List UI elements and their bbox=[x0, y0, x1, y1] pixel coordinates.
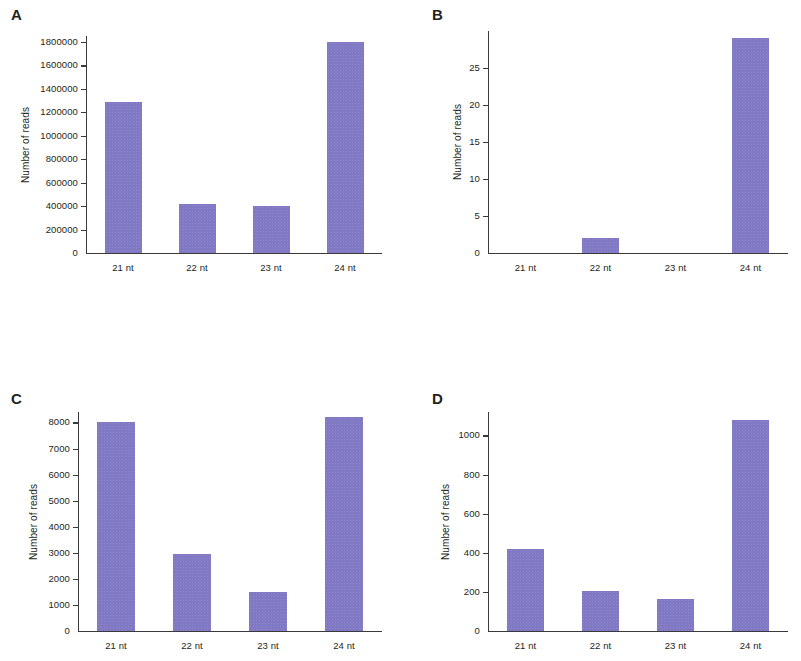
x-axis-category-label: 21 nt bbox=[86, 262, 160, 273]
y-axis-tick bbox=[73, 449, 78, 450]
panel-a: A Number of reads02000004000006000008000… bbox=[0, 0, 400, 330]
y-axis-tick bbox=[73, 605, 78, 606]
y-axis-tick-label: 4000 bbox=[34, 521, 70, 532]
bar bbox=[582, 238, 620, 253]
y-axis-title: Number of reads bbox=[20, 107, 31, 183]
x-axis-category-label: 22 nt bbox=[160, 262, 234, 273]
y-axis-tick-label: 0 bbox=[458, 247, 480, 258]
y-axis-tick bbox=[81, 65, 86, 66]
y-axis-tick bbox=[483, 592, 488, 593]
y-axis-tick-label: 2000 bbox=[34, 573, 70, 584]
y-axis-tick bbox=[81, 136, 86, 137]
x-axis-category-label: 24 nt bbox=[713, 262, 788, 273]
y-axis-tick bbox=[81, 159, 86, 160]
x-axis-category-label: 23 nt bbox=[230, 640, 306, 651]
y-axis-tick-label: 400000 bbox=[26, 200, 78, 211]
bar bbox=[97, 422, 135, 631]
bar bbox=[507, 549, 545, 631]
y-axis-tick-label: 8000 bbox=[34, 416, 70, 427]
y-axis-tick-label: 7000 bbox=[34, 443, 70, 454]
x-axis-category-label: 21 nt bbox=[78, 640, 154, 651]
x-axis-category-label: 24 nt bbox=[308, 262, 382, 273]
bar bbox=[173, 554, 211, 631]
y-axis-tick-label: 6000 bbox=[34, 469, 70, 480]
y-axis-line bbox=[78, 412, 79, 632]
y-axis-tick-label: 5 bbox=[458, 210, 480, 221]
y-axis-tick bbox=[81, 206, 86, 207]
y-axis-tick bbox=[483, 105, 488, 106]
x-axis-category-label: 21 nt bbox=[488, 640, 563, 651]
y-axis-tick-label: 800000 bbox=[26, 153, 78, 164]
y-axis-tick-label: 5000 bbox=[34, 495, 70, 506]
x-axis-category-label: 24 nt bbox=[306, 640, 382, 651]
y-axis-tick bbox=[483, 142, 488, 143]
y-axis-tick-label: 15 bbox=[458, 136, 480, 147]
y-axis-tick-label: 3000 bbox=[34, 547, 70, 558]
y-axis-tick-label: 0 bbox=[446, 625, 480, 636]
y-axis-tick-label: 0 bbox=[34, 625, 70, 636]
y-axis-tick bbox=[483, 475, 488, 476]
bar bbox=[732, 38, 770, 253]
figure-panels-abcd: A Number of reads02000004000006000008000… bbox=[0, 0, 801, 661]
bar bbox=[253, 206, 290, 253]
panel-letter-b: B bbox=[432, 6, 443, 23]
x-axis-category-label: 24 nt bbox=[713, 640, 788, 651]
bar bbox=[582, 591, 620, 631]
y-axis-tick-label: 600000 bbox=[26, 177, 78, 188]
bar bbox=[657, 599, 695, 631]
y-axis-tick bbox=[73, 527, 78, 528]
y-axis-tick bbox=[73, 475, 78, 476]
y-axis-tick-label: 1800000 bbox=[26, 36, 78, 47]
y-axis-tick-label: 10 bbox=[458, 173, 480, 184]
y-axis-line bbox=[488, 412, 489, 632]
x-axis-category-label: 22 nt bbox=[154, 640, 230, 651]
bar bbox=[179, 204, 216, 253]
y-axis-line bbox=[86, 36, 87, 254]
y-axis-tick-label: 200000 bbox=[26, 224, 78, 235]
panel-letter-d: D bbox=[432, 390, 443, 407]
x-axis-category-label: 21 nt bbox=[488, 262, 563, 273]
x-axis-line bbox=[488, 253, 788, 254]
y-axis-tick-label: 1200000 bbox=[26, 106, 78, 117]
y-axis-tick-label: 0 bbox=[26, 247, 78, 258]
y-axis-tick-label: 1000 bbox=[446, 429, 480, 440]
panel-d: D Number of reads0200400600800100021 nt2… bbox=[400, 331, 800, 661]
y-axis-tick bbox=[81, 230, 86, 231]
y-axis-tick bbox=[73, 501, 78, 502]
bar bbox=[327, 42, 364, 253]
y-axis-tick-label: 1000 bbox=[34, 599, 70, 610]
y-axis-tick-label: 1600000 bbox=[26, 59, 78, 70]
x-axis-line bbox=[86, 253, 382, 254]
y-axis-tick-label: 200 bbox=[446, 586, 480, 597]
y-axis-tick bbox=[73, 553, 78, 554]
x-axis-category-label: 23 nt bbox=[234, 262, 308, 273]
y-axis-tick bbox=[81, 112, 86, 113]
y-axis-tick bbox=[483, 553, 488, 554]
bar bbox=[249, 592, 287, 631]
y-axis-tick bbox=[483, 216, 488, 217]
y-axis-tick bbox=[81, 42, 86, 43]
x-axis-line bbox=[78, 631, 382, 632]
y-axis-tick-label: 1400000 bbox=[26, 83, 78, 94]
y-axis-tick bbox=[483, 179, 488, 180]
y-axis-tick bbox=[483, 68, 488, 69]
bar bbox=[732, 420, 770, 631]
panel-b: B Number of reads051015202521 nt22 nt23 … bbox=[400, 0, 800, 330]
y-axis-tick-label: 20 bbox=[458, 99, 480, 110]
bar bbox=[105, 102, 142, 253]
panel-letter-a: A bbox=[11, 6, 22, 23]
y-axis-tick-label: 600 bbox=[446, 508, 480, 519]
y-axis-tick-label: 400 bbox=[446, 547, 480, 558]
panel-letter-c: C bbox=[11, 390, 22, 407]
y-axis-tick bbox=[483, 514, 488, 515]
y-axis-tick bbox=[81, 183, 86, 184]
y-axis-tick-label: 800 bbox=[446, 469, 480, 480]
x-axis-category-label: 23 nt bbox=[638, 640, 713, 651]
y-axis-tick bbox=[73, 422, 78, 423]
bar bbox=[325, 417, 363, 631]
x-axis-category-label: 22 nt bbox=[563, 262, 638, 273]
y-axis-tick bbox=[81, 89, 86, 90]
y-axis-line bbox=[488, 31, 489, 254]
x-axis-category-label: 22 nt bbox=[563, 640, 638, 651]
y-axis-tick bbox=[483, 435, 488, 436]
